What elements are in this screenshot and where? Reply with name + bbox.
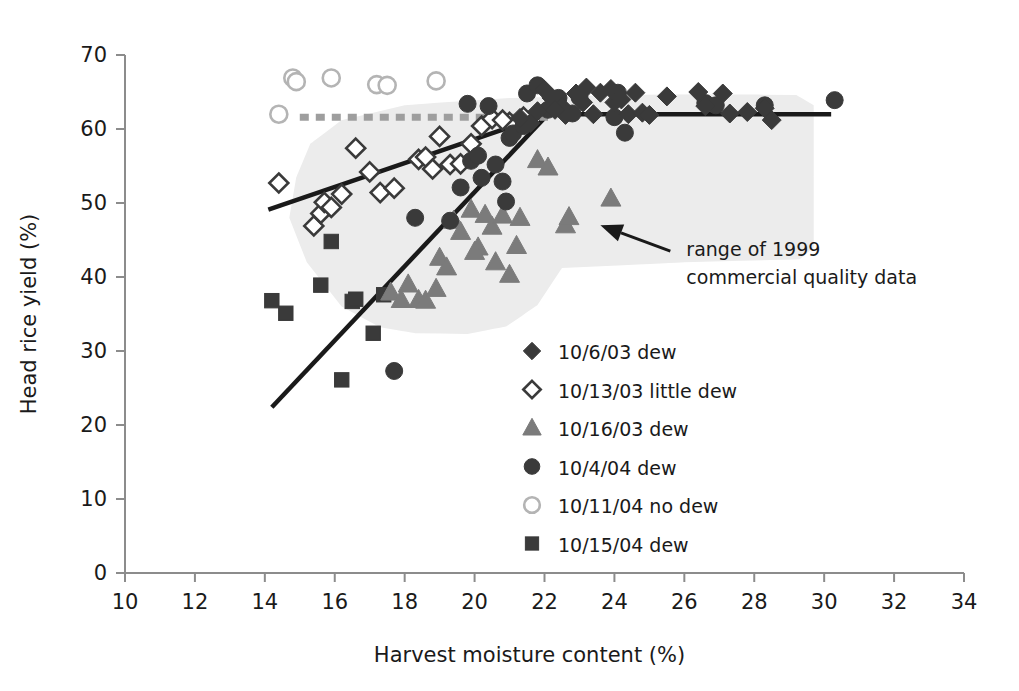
- marker-open-circle: [323, 69, 340, 86]
- marker-filled-square: [279, 306, 293, 320]
- legend-item-label: 10/6/03 dew: [558, 341, 677, 363]
- legend-item-2[interactable]: 10/16/03 dew: [523, 418, 689, 440]
- legend-item-label: 10/4/04 dew: [558, 457, 677, 479]
- x-tick-label: 24: [601, 590, 628, 614]
- x-tick-label: 30: [811, 590, 838, 614]
- x-tick-label: 20: [461, 590, 488, 614]
- x-tick-label: 28: [741, 590, 768, 614]
- legend-item-label: 10/13/03 little dew: [558, 380, 737, 402]
- marker-filled-circle: [487, 156, 504, 173]
- marker-filled-circle: [524, 459, 540, 475]
- legend-item-label: 10/15/04 dew: [558, 534, 689, 556]
- marker-open-circle: [288, 73, 305, 90]
- y-tick-label: 0: [94, 561, 107, 585]
- annotation-text-line1: range of 1999: [686, 238, 820, 260]
- marker-filled-circle: [498, 193, 515, 210]
- marker-filled-circle: [826, 92, 843, 109]
- marker-filled-circle: [480, 98, 497, 115]
- y-tick-label: 10: [80, 487, 107, 511]
- range-1999-shaded-region: [289, 94, 813, 334]
- marker-filled-square: [324, 234, 338, 248]
- marker-filled-circle: [459, 95, 476, 112]
- x-tick-label: 16: [321, 590, 348, 614]
- y-axis-title: Head rice yield (%): [17, 214, 41, 415]
- marker-filled-circle: [452, 179, 469, 196]
- legend-item-label: 10/16/03 dew: [558, 418, 689, 440]
- x-tick-label: 12: [182, 590, 209, 614]
- marker-open-circle: [524, 497, 540, 513]
- legend-item-5[interactable]: 10/15/04 dew: [525, 534, 688, 556]
- legend-item-1[interactable]: 10/13/03 little dew: [523, 380, 737, 402]
- marker-filled-circle: [470, 147, 487, 164]
- legend-item-label: 10/11/04 no dew: [558, 495, 718, 517]
- y-tick-label: 60: [80, 117, 107, 141]
- marker-filled-square: [314, 278, 328, 292]
- y-tick-label: 40: [80, 265, 107, 289]
- x-tick-label: 22: [531, 590, 558, 614]
- marker-filled-square: [265, 293, 279, 307]
- marker-filled-circle: [494, 173, 511, 190]
- y-tick-label: 70: [80, 43, 107, 67]
- marker-filled-square: [525, 537, 538, 550]
- x-axis-title: Harvest moisture content (%): [374, 643, 685, 667]
- marker-filled-square: [335, 373, 349, 387]
- x-tick-label: 32: [881, 590, 908, 614]
- marker-filled-triangle: [523, 418, 541, 435]
- y-tick-label: 30: [80, 339, 107, 363]
- marker-filled-square: [366, 326, 380, 340]
- legend-item-4[interactable]: 10/11/04 no dew: [524, 495, 718, 517]
- x-tick-label: 14: [251, 590, 278, 614]
- legend-item-0[interactable]: 10/6/03 dew: [523, 341, 676, 363]
- marker-open-circle: [428, 72, 445, 89]
- scatter-plot-canvas: 0102030405060701012141618202224262830323…: [0, 0, 1019, 691]
- marker-filled-circle: [442, 212, 459, 229]
- x-tick-label: 18: [391, 590, 418, 614]
- marker-filled-circle: [473, 169, 490, 186]
- marker-filled-circle: [386, 362, 403, 379]
- marker-open-circle: [379, 77, 396, 94]
- y-tick-label: 20: [80, 413, 107, 437]
- marker-filled-square: [349, 292, 363, 306]
- marker-open-circle: [270, 106, 287, 123]
- legend-group: 10/6/03 dew10/13/03 little dew10/16/03 d…: [523, 341, 737, 556]
- marker-filled-diamond: [523, 342, 540, 359]
- annotation-text-line2: commercial quality data: [686, 266, 917, 288]
- chart-figure: 0102030405060701012141618202224262830323…: [0, 0, 1019, 691]
- marker-filled-circle: [616, 124, 633, 141]
- y-tick-label: 50: [80, 191, 107, 215]
- marker-open-diamond: [523, 381, 540, 398]
- marker-open-diamond: [269, 174, 288, 193]
- marker-filled-circle: [407, 209, 424, 226]
- x-tick-label: 26: [671, 590, 698, 614]
- x-tick-label: 10: [112, 590, 139, 614]
- x-tick-label: 34: [951, 590, 978, 614]
- shaded-region-group: [289, 94, 813, 334]
- legend-item-3[interactable]: 10/4/04 dew: [524, 457, 676, 479]
